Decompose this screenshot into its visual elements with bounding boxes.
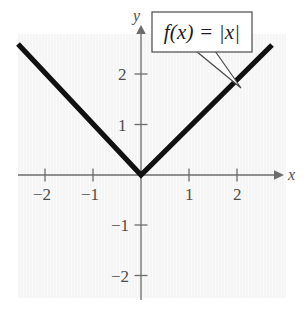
x-tick-label-2: 2 bbox=[233, 186, 242, 203]
absolute-value-curve bbox=[18, 44, 272, 175]
callout-pointer bbox=[196, 51, 241, 88]
y-tick-label-2: 2 bbox=[118, 66, 127, 83]
callout-box bbox=[152, 12, 252, 52]
graph-vector-layer bbox=[0, 0, 307, 315]
y-tick-label--2: −2 bbox=[111, 268, 129, 285]
x-tick-label-1: 1 bbox=[185, 186, 194, 203]
x-tick-label--2: −2 bbox=[33, 186, 51, 203]
x-axis-arrowhead bbox=[274, 170, 284, 180]
y-axis-label: y bbox=[133, 8, 140, 24]
y-tick-label-1: 1 bbox=[118, 117, 127, 134]
x-axis-label: x bbox=[288, 167, 295, 183]
y-axis-arrowhead bbox=[136, 25, 146, 34]
y-tick-label--1: −1 bbox=[111, 217, 129, 234]
x-tick-label--1: −1 bbox=[81, 186, 99, 203]
graph-figure: f(x) = |x| −2 −1 1 2 2 1 −1 −2 x y bbox=[0, 0, 307, 315]
